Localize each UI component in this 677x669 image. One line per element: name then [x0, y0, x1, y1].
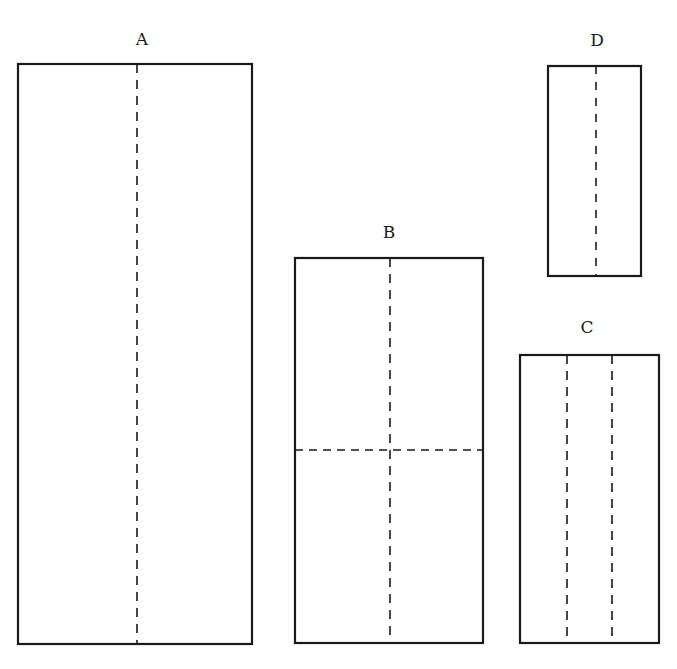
panel-b-label: B	[383, 222, 396, 242]
panel-b: B	[295, 222, 483, 643]
panel-c-rectangle	[520, 355, 659, 643]
panel-c: C	[520, 317, 659, 643]
panel-d-label: D	[590, 30, 604, 50]
panel-a-rectangle	[18, 64, 252, 644]
fold-diagram: A B C D	[0, 0, 677, 669]
panel-a-label: A	[135, 29, 149, 49]
panel-a: A	[18, 29, 252, 644]
panel-d: D	[548, 30, 641, 276]
panel-c-label: C	[580, 317, 593, 337]
panel-d-rectangle	[548, 66, 641, 276]
